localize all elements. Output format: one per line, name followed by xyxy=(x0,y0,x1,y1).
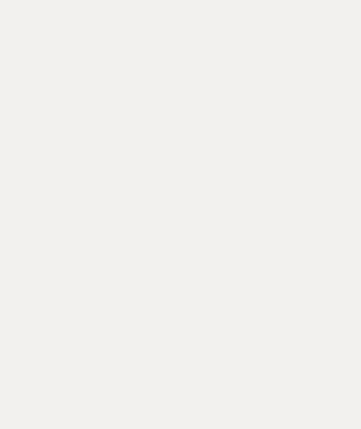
figure-background xyxy=(0,0,361,429)
figure-scatter-plots xyxy=(0,0,361,429)
plot-canvas xyxy=(0,0,361,429)
